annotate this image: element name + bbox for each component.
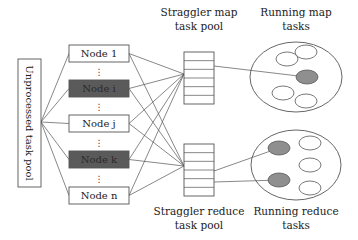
node-3: Node j: [69, 115, 129, 132]
edge-node-to-reduce-pool: [129, 124, 184, 167]
node-label: Node 1: [81, 48, 118, 59]
node-label: Node n: [81, 190, 118, 201]
straggler-map-pool-label-line2: task pool: [175, 20, 224, 32]
running-reduce-label-line2: tasks: [282, 219, 310, 231]
unprocessed-task-pool-label: Unprocessed task pool: [24, 65, 35, 180]
node-5: Node n: [69, 187, 129, 204]
edge-node-to-map-pool: [129, 74, 184, 160]
edge-pool-to-node: [41, 122, 69, 196]
vertical-ellipsis-icon: ⋮: [95, 67, 104, 77]
edge-node-to-reduce-pool: [129, 54, 184, 167]
running-task: [299, 136, 321, 150]
edge-pool-to-node: [41, 89, 69, 123]
backup-task: [296, 70, 318, 84]
running-task: [299, 158, 321, 172]
edge-pool-to-node: [41, 54, 69, 123]
vertical-ellipsis-icon: ⋮: [95, 102, 104, 112]
running-task: [272, 86, 294, 100]
edge-node-to-reduce-pool: [129, 89, 184, 167]
node-2: Node i: [69, 80, 129, 97]
edge-node-to-reduce-pool: [129, 166, 184, 196]
straggler-scheduling-diagram: Unprocessed task pool Node 1Node iNode j…: [0, 0, 358, 240]
edge-pool-to-running-task: [214, 66, 307, 77]
node-label: Node k: [81, 154, 118, 165]
edge-pool-to-node: [41, 122, 69, 160]
edge-node-to-reduce-pool: [129, 160, 184, 167]
running-task: [299, 181, 321, 195]
running-map-label-line1: Running map: [260, 6, 332, 18]
running-map-label-line2: tasks: [282, 20, 310, 32]
running-task: [276, 52, 298, 66]
node-1: Node 1: [69, 45, 129, 62]
node-label: Node i: [82, 83, 115, 94]
backup-task: [268, 173, 290, 187]
backup-task: [268, 141, 290, 155]
running-reduce-label-line1: Running reduce: [253, 205, 338, 217]
diagram-canvas: Unprocessed task pool Node 1Node iNode j…: [0, 0, 358, 240]
running-task: [295, 94, 317, 108]
unprocessed-task-pool: Unprocessed task pool: [18, 59, 41, 187]
running-task: [295, 45, 317, 59]
node-4: Node k: [69, 151, 129, 168]
running-reduce-tasks: [251, 130, 341, 200]
node-label: Node j: [82, 118, 115, 129]
straggler-reduce-task-pool: [184, 144, 214, 196]
straggler-map-task-pool: [184, 52, 214, 104]
running-map-tasks: [250, 42, 342, 112]
edge-pool-to-node: [41, 122, 69, 124]
running-tasks-container: [251, 130, 341, 200]
straggler-map-pool-label-line1: Straggler map: [160, 6, 237, 18]
vertical-ellipsis-icon: ⋮: [95, 138, 104, 148]
straggler-reduce-pool-label-line1: Straggler reduce: [154, 205, 245, 217]
straggler-reduce-pool-label-line2: task pool: [175, 219, 224, 231]
vertical-ellipsis-icon: ⋮: [95, 174, 104, 184]
edge-node-to-map-pool: [129, 74, 184, 196]
